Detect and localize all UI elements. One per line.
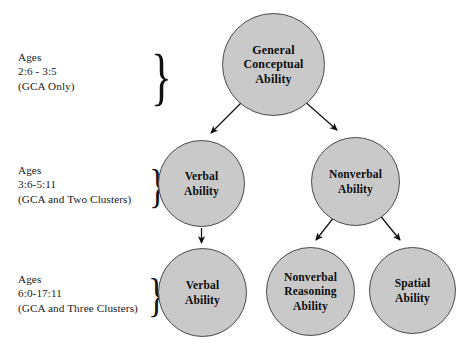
age-level-1-label: Ages 2:6 - 3:5 (GCA Only) — [18, 50, 75, 93]
gca-label-line-2: Conceptual — [243, 57, 303, 72]
brace-level-1: } — [151, 46, 172, 109]
verbal3-label-line-2: Ability — [185, 293, 220, 307]
node-verbal-ability-level-3-label: Verbal Ability — [181, 278, 224, 306]
gca-label-line-1: General — [243, 43, 303, 58]
node-verbal-ability-level-2[interactable]: Verbal Ability — [158, 140, 245, 227]
age-level-1-line-3: (GCA Only) — [18, 79, 75, 93]
age-level-3-label: Ages 6:0-17:11 (GCA and Three Clusters) — [18, 272, 138, 315]
node-spatial-ability-level-3[interactable]: Spatial Ability — [369, 247, 456, 334]
verbal3-label-line-1: Verbal — [185, 278, 220, 292]
age-level-1-line-1: Ages — [18, 50, 75, 64]
gca-label-line-3: Ability — [243, 72, 303, 87]
node-general-conceptual-ability[interactable]: General Conceptual Ability — [222, 13, 325, 116]
age-level-3-line-1: Ages — [18, 272, 138, 286]
edge-gca-to-nonverbal2 — [303, 100, 337, 130]
verbal2-label-line-1: Verbal — [184, 169, 219, 183]
nonverbal2-label-line-1: Nonverbal — [329, 167, 382, 181]
node-spatial-ability-level-3-label: Spatial Ability — [391, 276, 435, 304]
nvreason3-label-line-3: Ability — [284, 299, 337, 313]
age-level-2-label: Ages 3:6-5:11 (GCA and Two Clusters) — [18, 163, 131, 206]
age-level-2-line-1: Ages — [18, 163, 131, 177]
age-level-1-line-2: 2:6 - 3:5 — [18, 64, 75, 78]
age-level-2-line-2: 3:6-5:11 — [18, 177, 131, 191]
nonverbal2-label-line-2: Ability — [329, 182, 382, 196]
node-nonverbal-reasoning-ability-level-3[interactable]: Nonverbal Reasoning Ability — [266, 247, 355, 336]
age-level-2-line-3: (GCA and Two Clusters) — [18, 192, 131, 206]
edge-gca-to-verbal2 — [211, 100, 244, 133]
node-general-conceptual-ability-label: General Conceptual Ability — [239, 43, 307, 87]
nvreason3-label-line-2: Reasoning — [284, 284, 337, 298]
node-verbal-ability-level-3[interactable]: Verbal Ability — [158, 248, 247, 337]
nvreason3-label-line-1: Nonverbal — [284, 270, 337, 284]
spatial3-label-line-2: Ability — [395, 291, 431, 305]
verbal2-label-line-2: Ability — [184, 184, 219, 198]
node-nonverbal-ability-level-2-label: Nonverbal Ability — [325, 167, 386, 195]
diagram-canvas: Ages 2:6 - 3:5 (GCA Only) } Ages 3:6-5:1… — [0, 0, 470, 350]
age-level-3-line-2: 6:0-17:11 — [18, 286, 138, 300]
age-level-3-line-3: (GCA and Three Clusters) — [18, 301, 138, 315]
node-nonverbal-reasoning-ability-level-3-label: Nonverbal Reasoning Ability — [280, 270, 341, 312]
spatial3-label-line-1: Spatial — [395, 276, 431, 290]
node-nonverbal-ability-level-2[interactable]: Nonverbal Ability — [311, 137, 400, 226]
node-verbal-ability-level-2-label: Verbal Ability — [180, 169, 223, 197]
